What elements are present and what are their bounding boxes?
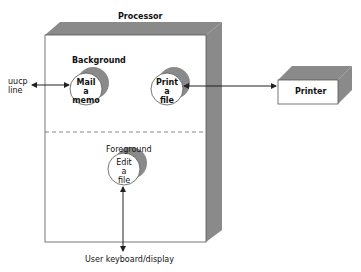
edit-process-label: Edit a file [108, 158, 140, 185]
foreground-label: Foreground [106, 145, 152, 154]
diagram-canvas [0, 0, 361, 272]
printer-box [278, 66, 352, 104]
background-label: Background [72, 56, 126, 65]
printer-label: Printer [295, 87, 326, 96]
print-process-label: Print a file [151, 78, 183, 105]
user-keyboard-display-label: User keyboard/display [85, 255, 174, 264]
processor-label: Processor [118, 12, 162, 21]
mail-process-label: Mail a memo [70, 78, 102, 105]
uucp-line-label: uucp line [8, 77, 28, 95]
